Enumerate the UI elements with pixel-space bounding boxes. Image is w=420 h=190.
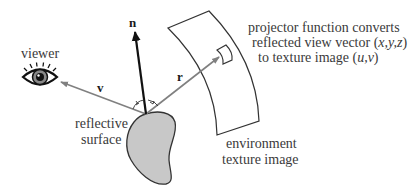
texture-label-line2: texture image bbox=[222, 152, 299, 167]
view-vector-arrow bbox=[61, 82, 146, 114]
diagram-canvas: viewer n v r reflective surface environm… bbox=[0, 0, 420, 190]
texture-label-line1: environment bbox=[226, 136, 297, 151]
surface-label-line2: surface bbox=[81, 132, 121, 147]
projector-label-line2: reflected view vector (x,y,z) bbox=[252, 35, 407, 51]
surface-label-line1: reflective bbox=[75, 116, 128, 131]
reflective-surface-shape bbox=[127, 112, 176, 184]
viewer-label: viewer bbox=[21, 46, 59, 61]
diagram-svg: viewer n v r reflective surface environm… bbox=[0, 0, 420, 190]
projector-label-line1: projector function converts bbox=[248, 20, 400, 35]
view-vector-label: v bbox=[97, 80, 104, 95]
normal-vector-label: n bbox=[129, 15, 137, 30]
reflected-vector-label: r bbox=[177, 69, 183, 84]
eye-icon bbox=[23, 63, 57, 85]
projector-label-line3: to texture image (u,v) bbox=[258, 50, 379, 66]
